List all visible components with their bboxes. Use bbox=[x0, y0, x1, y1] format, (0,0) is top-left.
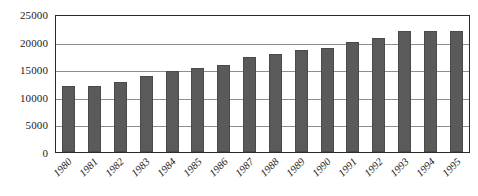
bar bbox=[269, 54, 282, 152]
bar-slot bbox=[133, 16, 159, 152]
x-tick-slot: 1984 bbox=[159, 154, 185, 196]
y-tick-label: 5000 bbox=[26, 119, 48, 131]
bar-slot bbox=[237, 16, 263, 152]
bar bbox=[372, 38, 385, 152]
x-tick-slot: 1981 bbox=[81, 154, 107, 196]
bar-slot bbox=[82, 16, 108, 152]
x-tick-slot: 1992 bbox=[366, 154, 392, 196]
y-tick-label: 25000 bbox=[20, 9, 48, 21]
y-tick-label: 0 bbox=[42, 147, 48, 159]
x-tick-slot: 1993 bbox=[392, 154, 418, 196]
bar bbox=[321, 48, 334, 152]
bar-slot bbox=[108, 16, 134, 152]
bar-slot bbox=[366, 16, 392, 152]
bar-slot bbox=[211, 16, 237, 152]
bar bbox=[346, 42, 359, 152]
bar bbox=[191, 68, 204, 152]
x-tick-label: 1985 bbox=[181, 156, 204, 179]
x-tick-slot: 1982 bbox=[107, 154, 133, 196]
bar-slot bbox=[443, 16, 469, 152]
x-tick-label: 1982 bbox=[103, 156, 126, 179]
x-tick-label: 1991 bbox=[336, 156, 359, 179]
x-tick-slot: 1994 bbox=[418, 154, 444, 196]
bars-layer bbox=[56, 16, 469, 152]
y-tick-label: 20000 bbox=[20, 37, 48, 49]
bar bbox=[62, 86, 75, 152]
x-tick-label: 1992 bbox=[362, 156, 385, 179]
bar bbox=[243, 57, 256, 152]
bar-slot bbox=[288, 16, 314, 152]
bar bbox=[424, 31, 437, 152]
y-tick-label: 15000 bbox=[20, 64, 48, 76]
bar-slot bbox=[185, 16, 211, 152]
y-tick-label: 10000 bbox=[20, 92, 48, 104]
bar-chart: 0500010000150002000025000 19801981198219… bbox=[0, 0, 478, 196]
x-tick-slot: 1988 bbox=[263, 154, 289, 196]
bar bbox=[114, 82, 127, 152]
bar-slot bbox=[159, 16, 185, 152]
x-tick-slot: 1990 bbox=[314, 154, 340, 196]
x-tick-slot: 1987 bbox=[237, 154, 263, 196]
x-tick-label: 1987 bbox=[233, 156, 256, 179]
bar-slot bbox=[340, 16, 366, 152]
x-tick-label: 1988 bbox=[259, 156, 282, 179]
x-axis: 1980198119821983198419851986198719881989… bbox=[55, 154, 470, 196]
bar-slot bbox=[314, 16, 340, 152]
bar-slot bbox=[263, 16, 289, 152]
bar-slot bbox=[56, 16, 82, 152]
y-axis: 0500010000150002000025000 bbox=[0, 0, 52, 196]
x-tick-label: 1990 bbox=[310, 156, 333, 179]
x-tick-label: 1980 bbox=[51, 156, 74, 179]
bar bbox=[295, 50, 308, 152]
x-tick-slot: 1983 bbox=[133, 154, 159, 196]
x-tick-slot: 1980 bbox=[55, 154, 81, 196]
x-tick-slot: 1989 bbox=[288, 154, 314, 196]
x-tick-label: 1984 bbox=[155, 156, 178, 179]
x-tick-slot: 1986 bbox=[211, 154, 237, 196]
x-tick-label: 1995 bbox=[440, 156, 463, 179]
x-tick-label: 1993 bbox=[388, 156, 411, 179]
bar bbox=[398, 31, 411, 152]
bar-slot bbox=[417, 16, 443, 152]
x-tick-label: 1983 bbox=[129, 156, 152, 179]
x-tick-label: 1994 bbox=[414, 156, 437, 179]
x-tick-label: 1986 bbox=[207, 156, 230, 179]
bar bbox=[140, 76, 153, 152]
x-tick-slot: 1995 bbox=[444, 154, 470, 196]
x-tick-label: 1989 bbox=[285, 156, 308, 179]
plot-area bbox=[55, 15, 470, 153]
x-tick-slot: 1991 bbox=[340, 154, 366, 196]
x-tick-label: 1981 bbox=[77, 156, 100, 179]
bar-slot bbox=[392, 16, 418, 152]
bar bbox=[166, 71, 179, 152]
x-tick-slot: 1985 bbox=[185, 154, 211, 196]
bar bbox=[217, 65, 230, 152]
bar bbox=[450, 31, 463, 152]
bar bbox=[88, 86, 101, 152]
